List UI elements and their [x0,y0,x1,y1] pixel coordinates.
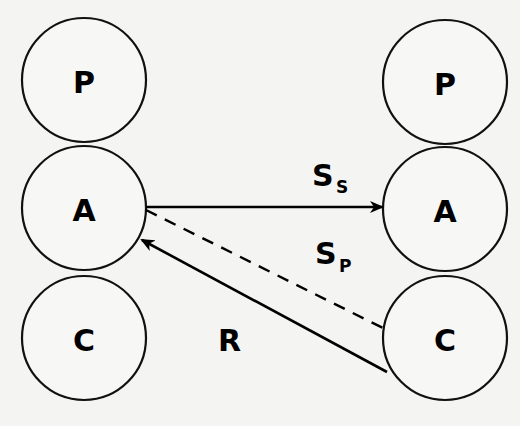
edge-subscript: P [339,256,351,276]
edge-subscript: S [336,177,348,197]
edge-label: S [315,236,337,271]
node-label: C [73,323,95,358]
edge-label: R [218,323,241,358]
right-node-p: P [383,20,507,144]
pac-transaction-diagram: P A C P A C S S S P [0,0,520,426]
node-label: P [73,65,95,100]
left-node-p: P [22,18,146,142]
edge-label: S [312,158,334,193]
right-node-a: A [383,147,507,271]
left-node-c: C [22,276,146,400]
node-label: P [434,67,456,102]
left-node-a: A [22,146,146,270]
edge-stimulus-s: S S [146,158,382,207]
node-label: A [72,193,96,228]
left-person: P A C [22,18,146,400]
right-node-c: C [383,276,507,400]
right-person: P A C [383,20,507,400]
node-label: C [434,323,456,358]
edge-stimulus-p: S P [146,210,383,328]
node-label: A [433,194,457,229]
